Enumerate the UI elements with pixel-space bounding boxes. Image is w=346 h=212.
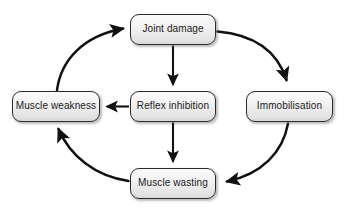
node-joint-damage-label: Joint damage — [142, 24, 203, 35]
node-muscle-wasting[interactable]: Muscle wasting — [130, 168, 216, 199]
node-muscle-weakness-label: Muscle weakness — [16, 101, 96, 112]
edge-joint-damage-to-immobilisation — [218, 32, 287, 81]
edge-immobilisation-to-muscle-wasting — [227, 124, 288, 182]
node-immobilisation-label: Immobilisation — [257, 101, 322, 112]
node-immobilisation[interactable]: Immobilisation — [246, 91, 333, 122]
node-muscle-wasting-label: Muscle wasting — [138, 178, 208, 189]
diagram-canvas: Joint damage Muscle weakness Reflex inhi… — [0, 0, 346, 212]
node-reflex-inhibition-label: Reflex inhibition — [137, 101, 209, 112]
node-reflex-inhibition[interactable]: Reflex inhibition — [130, 91, 216, 122]
node-muscle-weakness[interactable]: Muscle weakness — [12, 91, 100, 122]
edge-muscle-weakness-to-joint-damage — [57, 29, 123, 91]
node-joint-damage[interactable]: Joint damage — [130, 14, 216, 45]
edge-muscle-wasting-to-muscle-weakness — [59, 129, 129, 181]
